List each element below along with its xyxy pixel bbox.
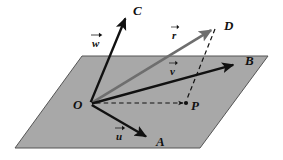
vector-diagram-figure: O A B C D P u v <box>0 0 283 160</box>
vector-label-w-text: w <box>92 37 99 49</box>
vector-label-w: w <box>92 38 99 49</box>
diagram-canvas <box>0 0 283 160</box>
point-p-marker <box>184 101 188 105</box>
point-label-o: O <box>73 98 82 111</box>
point-label-p: P <box>191 99 199 112</box>
vector-label-u: u <box>116 131 122 142</box>
vector-label-v-text: v <box>170 65 175 77</box>
point-label-c: C <box>133 4 142 17</box>
vector-label-u-text: u <box>116 130 122 142</box>
point-label-b: B <box>245 54 254 67</box>
vector-label-r-text: r <box>172 29 176 41</box>
vector-label-v: v <box>170 66 175 77</box>
point-label-a: A <box>156 135 165 148</box>
point-label-d: D <box>224 19 233 32</box>
vector-label-r: r <box>172 30 176 41</box>
